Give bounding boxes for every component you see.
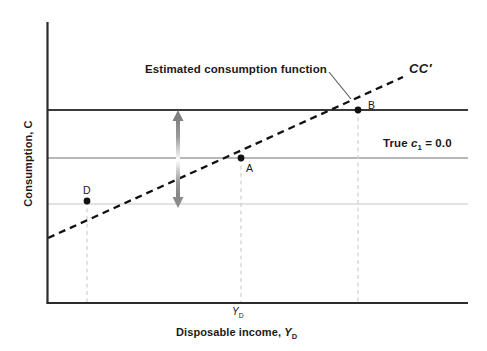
true-c1-prefix: True bbox=[383, 137, 411, 149]
point-label-a: A bbox=[246, 163, 253, 174]
curve-label-cc-prime: CC′ bbox=[409, 62, 432, 75]
data-point-a bbox=[238, 155, 245, 162]
point-label-d: D bbox=[83, 185, 91, 196]
true-c1-annotation: True c1 = 0.0 bbox=[383, 138, 452, 152]
x-tick-subscript: D bbox=[239, 312, 244, 319]
x-tick-variable: Y bbox=[232, 306, 239, 317]
x-axis-title-variable: Y bbox=[284, 326, 291, 338]
x-axis-tick-label: YD bbox=[232, 307, 244, 320]
point-label-b: B bbox=[368, 100, 375, 111]
data-point-d bbox=[84, 198, 91, 205]
true-c1-value: = 0.0 bbox=[422, 137, 452, 149]
y-axis-title: Consumption, C bbox=[23, 94, 34, 234]
consumption-function-chart: Consumption, C Disposable income, YD YD … bbox=[0, 0, 487, 351]
x-axis-title-prefix: Disposable income, bbox=[176, 326, 284, 338]
gap-double-arrow bbox=[173, 110, 184, 208]
x-axis-title: Disposable income, YD bbox=[176, 327, 297, 341]
estimated-function-annotation: Estimated consumption function bbox=[145, 64, 327, 76]
data-point-b bbox=[355, 107, 362, 114]
annotation-leader-line bbox=[329, 72, 351, 99]
chart-canvas bbox=[0, 0, 487, 351]
x-axis-title-subscript: D bbox=[292, 332, 298, 341]
